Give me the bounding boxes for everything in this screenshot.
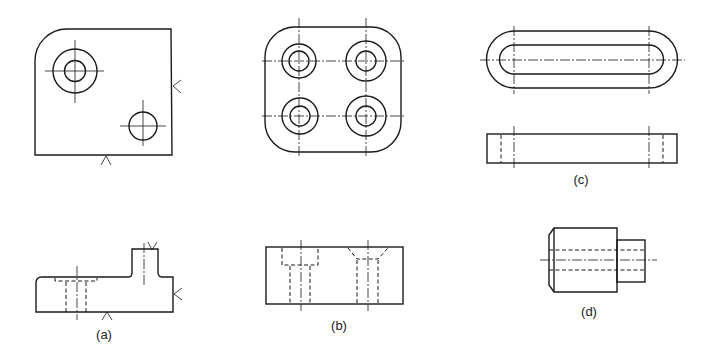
part-d-label: (d) [581,304,597,319]
part-b-label: (b) [331,318,347,333]
part-c-front-view [487,126,677,169]
part-b-front-view [266,240,403,311]
part-b-plan-view [262,18,405,157]
part-a-plan-view [35,29,181,165]
machining-mark-icon [101,156,111,165]
part-c-label: (c) [573,172,588,187]
machining-mark-icon [174,288,182,300]
part-c-plan-view [480,26,685,94]
drawing-sheet: .o{fill:none;stroke:#1a1a1a;stroke-width… [0,0,715,353]
part-a-label: (a) [96,327,112,342]
machining-mark-icon [173,80,181,93]
part-a-front-view [36,242,182,320]
machining-mark-icon [102,312,112,320]
part-d-elevation-view [540,228,657,292]
